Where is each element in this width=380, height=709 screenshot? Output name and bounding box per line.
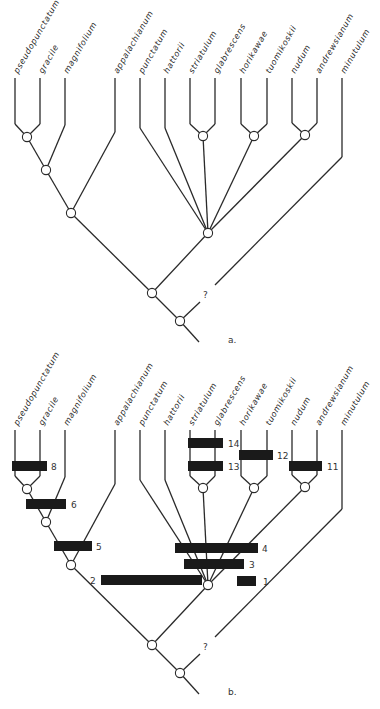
taxon-label: pseudopunctatum [11,0,62,76]
branch [208,136,254,233]
character-state-bar [184,559,244,569]
character-number: 8 [51,462,57,472]
uncertain-placement-mark: ? [203,642,208,652]
branch [152,233,208,293]
branch [215,509,342,637]
clade-node [300,130,309,139]
taxon-label: magnifolium [61,372,99,427]
taxon-label: pseudopunctatum [11,350,62,428]
clade-node [175,668,184,677]
character-number: 2 [90,576,96,586]
clade-node [249,483,258,492]
character-state-bar [26,499,66,509]
cladogram-figure: pseudopunctatumgracilemagnifoliumappalac… [0,0,380,709]
taxon-label: gracile [36,42,61,75]
branch [152,293,180,321]
branch [165,128,208,233]
clade-node [300,482,309,491]
character-state-bar [101,575,202,585]
character-state-bar [239,450,273,460]
character-number: 4 [262,544,268,554]
branch [208,488,254,585]
branch [140,128,208,233]
character-state-bar [237,576,256,586]
branch [215,157,342,285]
taxon-label: nudum [288,395,313,427]
character-number: 13 [228,462,239,472]
character-number: 1 [263,577,269,587]
branch [203,488,208,585]
uncertain-placement-mark: ? [203,290,208,300]
clade-node [22,132,31,141]
clade-node [198,131,207,140]
taxon-label: magnifolium [61,20,99,75]
clade-node [203,580,212,589]
branch [208,487,305,585]
character-number: 6 [71,500,77,510]
clade-node [41,165,50,174]
clade-node [22,484,31,493]
clade-node [41,517,50,526]
branch [71,213,152,293]
clade-node [249,131,258,140]
character-number: 5 [96,542,102,552]
character-state-bar [175,543,258,553]
clade-node [66,560,75,569]
character-number: 14 [228,439,240,449]
taxon-label: hattorii [161,392,187,427]
taxon-label: gracile [36,394,61,427]
character-state-bar [289,461,322,471]
branch [152,585,208,645]
branch [46,125,65,170]
character-state-bar [54,541,92,551]
branch [46,170,71,213]
character-state-bar [188,438,223,448]
branch [140,480,208,585]
branch [27,137,46,170]
branch [203,136,208,233]
clade-node [66,208,75,217]
taxon-label: hattorii [161,40,187,75]
branch [165,480,208,585]
panel-label: a. [228,335,236,345]
taxon-label: nudum [288,43,313,75]
character-number: 12 [277,451,288,461]
character-number: 3 [249,560,255,570]
branch [208,135,305,233]
cladogram-panel-a: pseudopunctatumgracilemagnifoliumappalac… [11,0,372,345]
clade-node [147,288,156,297]
character-number: 11 [327,462,338,472]
character-state-bar [12,461,47,471]
branch [152,645,180,673]
branch [71,132,115,213]
clade-node [203,228,212,237]
clade-node [147,640,156,649]
branch [71,484,115,565]
panel-label: b. [228,687,237,697]
clade-node [175,316,184,325]
character-state-bar [188,461,223,471]
cladogram-panel-b: pseudopunctatumgracilemagnifoliumappalac… [11,350,372,697]
clade-node [198,483,207,492]
